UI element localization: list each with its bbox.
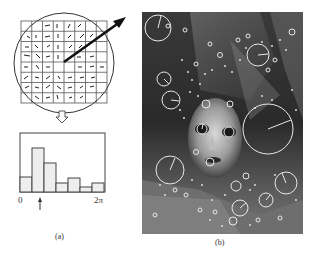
panel-b-caption: (b) [215,238,224,247]
histogram-x-min-label: 0 [18,195,23,205]
keypoint-dots [159,39,297,227]
histogram-bar [20,177,32,192]
histogram-bar [92,183,104,192]
orientation-histogram [20,133,105,210]
histogram-bar [32,148,44,192]
keypoint-circles [145,15,297,225]
panel-a-caption: (a) [55,232,64,241]
histogram-x-max-label: 2π [94,195,103,205]
histogram-bar [44,163,56,192]
histogram-bar [56,183,68,192]
histogram-bar [68,178,80,192]
histogram-bar [80,187,92,192]
panel-a-figure [0,0,135,261]
mask-face [188,98,242,178]
